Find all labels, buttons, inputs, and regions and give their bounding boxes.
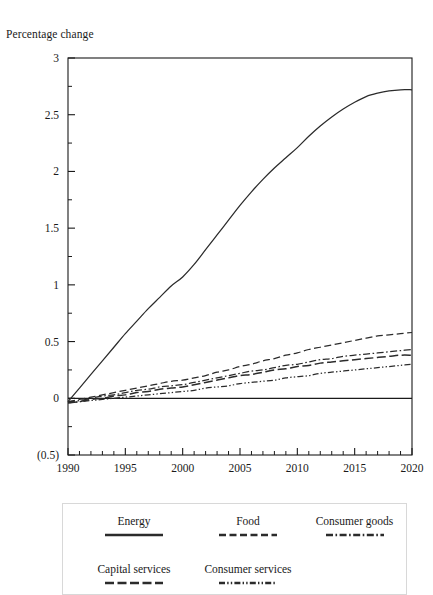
y-axis-tick-label: 2	[53, 165, 59, 177]
legend-item-label: Consumer services	[203, 562, 293, 576]
legend-item-label: Food	[203, 514, 293, 528]
legend-item-energy[interactable]: Energy	[85, 514, 183, 538]
legend-swatch-dashdotdot-icon	[203, 580, 293, 586]
series-line-consumer-services	[68, 364, 412, 403]
x-axis-tick-label: 2000	[171, 462, 194, 474]
x-axis-tick-label: 1990	[57, 462, 80, 474]
chart-container: Percentage change 32.521.510.50(0.5)1990…	[0, 0, 433, 595]
legend-swatch-solid-icon	[85, 532, 183, 538]
legend-item-label: Energy	[85, 514, 183, 528]
legend-item-capital-services[interactable]: Capital services	[85, 562, 183, 586]
y-axis-tick-label: 3	[53, 52, 59, 64]
legend-swatch-longdash-icon	[85, 580, 183, 586]
legend-swatch-dashed-icon	[203, 532, 293, 538]
legend-item-label: Capital services	[85, 562, 183, 576]
legend-item-consumer-services[interactable]: Consumer services	[203, 562, 293, 586]
legend-item-label: Consumer goods	[301, 514, 408, 528]
y-axis-tick-label: 2.5	[45, 109, 60, 121]
y-axis-tick-label: 0.5	[45, 336, 60, 348]
y-axis-tick-label: 1	[53, 279, 59, 291]
x-axis-tick-label: 2010	[286, 462, 309, 474]
x-axis-tick-label: 1995	[114, 462, 137, 474]
legend-row: EnergyFoodConsumer goods	[63, 514, 406, 556]
y-axis-tick-label: (0.5)	[37, 449, 59, 462]
series-line-capital-services	[68, 355, 412, 403]
x-axis-tick-label: 2005	[229, 462, 252, 474]
legend-item-consumer-goods[interactable]: Consumer goods	[301, 514, 408, 538]
series-line-food	[68, 333, 412, 402]
series-line-consumer-goods	[68, 350, 412, 402]
line-chart-plot: 32.521.510.50(0.5)1990199520002005201020…	[0, 0, 433, 480]
chart-legend: EnergyFoodConsumer goodsCapital services…	[62, 503, 407, 595]
y-axis-tick-label: 1.5	[45, 222, 60, 234]
y-axis-tick-label: 0	[53, 392, 59, 404]
x-axis-tick-label: 2015	[343, 462, 366, 474]
legend-row: Capital servicesConsumer services	[63, 562, 406, 595]
legend-item-food[interactable]: Food	[203, 514, 293, 538]
legend-swatch-dashdot-icon	[301, 532, 408, 538]
x-axis-tick-label: 2020	[401, 462, 424, 474]
